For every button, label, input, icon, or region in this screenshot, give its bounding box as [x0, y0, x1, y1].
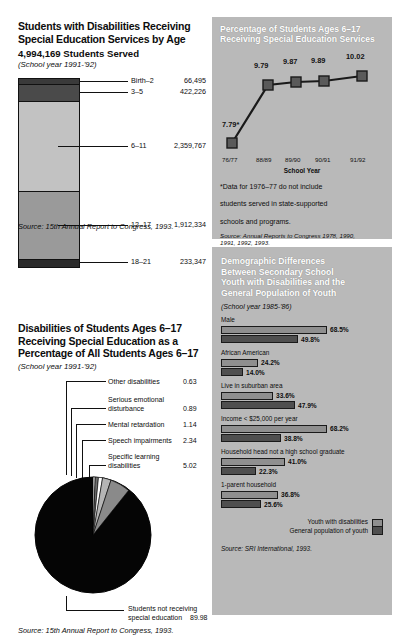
pie-label-specific-learning-disabilities-l1: Specific learning — [108, 453, 159, 461]
demo-value-male-disabilities: 68.5% — [330, 326, 349, 333]
line-marker-4 — [357, 71, 367, 81]
pie-label-other-disabilities: Other disabilities — [108, 378, 160, 386]
demo-legend-swatches — [372, 519, 383, 535]
line-marker-0 — [227, 138, 237, 148]
chart-demographic-differences: Demographic Differences Between Secondar… — [212, 247, 392, 615]
pie-leader-5-h — [66, 610, 124, 611]
chart-percentage-receiving-services: Percentage of Students Ages 6–17 Receivi… — [212, 17, 392, 239]
leader-18-21 — [80, 262, 128, 263]
line-chart-footnote-line2: students served in state-supported — [220, 200, 384, 209]
demo-legend-label-b: General population of youth — [289, 527, 368, 536]
line-chart-plot: 7.79* 9.79 9.87 9.89 10.02 — [220, 51, 384, 155]
pie-label-serious-emotional-disturbance-l1: Serious emotional — [108, 396, 164, 404]
pie-value-mental-retardation: 1.14 — [183, 421, 197, 429]
pie-chart-svg — [34, 476, 152, 594]
demo-category-suburban: Live in suburban area — [221, 382, 383, 390]
demo-value-male-general: 49.8% — [301, 336, 320, 343]
leader-6-11 — [58, 146, 128, 147]
demo-value-one-parent-general: 25.6% — [264, 501, 283, 508]
demo-title-line4: General Population of Youth — [221, 288, 383, 299]
pie-label-specific-learning-disabilities-l2: disabilities — [108, 462, 140, 470]
demo-bar-male-general — [221, 335, 298, 343]
demo-bar-row-income-general: 38.8% — [221, 434, 383, 442]
demo-bar-row-suburban-disabilities: 33.6% — [221, 392, 383, 400]
line-chart-footnote-line3: schools and programs. — [220, 218, 384, 227]
demo-bar-income-disabilities — [221, 425, 327, 433]
age-stack-column — [18, 78, 80, 268]
demo-bar-household-head-disabilities — [221, 458, 285, 466]
demo-category-african-american: African American — [221, 349, 383, 357]
line-chart-title-line2: Receiving Special Education Services — [220, 34, 384, 44]
pie-leader-2-h — [76, 424, 106, 425]
demo-category-income: Income < $25,000 per year — [221, 415, 383, 423]
demo-legend-swatch-general — [372, 527, 383, 535]
age-stacked-bar: Birth–2 3–5 6–11 12–17 18–21 66,495 422,… — [18, 78, 206, 268]
demo-value-suburban-disabilities: 33.6% — [276, 392, 295, 399]
demo-value-african-american-general: 14.0% — [246, 369, 265, 376]
demo-bar-one-parent-disabilities — [221, 491, 278, 499]
x-tick-3: 90/91 — [315, 156, 330, 163]
x-tick-1: 88/89 — [256, 156, 271, 163]
demo-title-line2: Between Secondary School — [221, 267, 383, 278]
age-chart-title-line1: Students with Disabilities Receiving — [18, 20, 198, 33]
pie-leader-3-h — [82, 440, 106, 441]
demo-category-male: Male — [221, 316, 383, 324]
demo-bar-row-one-parent-general: 25.6% — [221, 500, 383, 508]
x-tick-0: 76/77 — [222, 156, 237, 163]
leader-3-5 — [80, 92, 128, 93]
pie-value-students-not-receiving: 89.98 — [190, 614, 208, 622]
line-value-label-2: 9.87 — [283, 57, 297, 66]
demo-value-african-american-disabilities: 24.2% — [261, 359, 280, 366]
pie-leader-4-h — [89, 465, 106, 466]
pie-value-specific-learning-disabilities: 5.02 — [183, 462, 197, 470]
demo-bar-one-parent-general — [221, 500, 261, 508]
demo-legend: Youth with disabilities General populati… — [221, 518, 383, 535]
age-value-1: 422,226 — [140, 88, 206, 96]
pie-value-serious-emotional-disturbance: 0.89 — [183, 405, 197, 413]
demo-bar-male-disabilities — [221, 326, 327, 334]
demo-bar-row-african-american-general: 14.0% — [221, 368, 383, 376]
demo-school-year: (School year 1985-'86) — [221, 303, 383, 310]
line-chart-x-axis-labels: 76/77 88/89 89/90 90/91 91/92 — [220, 156, 384, 166]
demo-bar-row-male-general: 49.8% — [221, 335, 383, 343]
demo-bar-row-suburban-general: 47.9% — [221, 401, 383, 409]
age-value-2: 2,359,767 — [140, 142, 206, 150]
age-chart-source: Source: 15th Annual Report to Congress, … — [18, 222, 173, 231]
pie-chart-title-line2: Receiving Special Education as a — [18, 335, 208, 348]
demo-bar-african-american-general — [221, 368, 243, 376]
age-chart-school-year: (School year 1991-'92) — [18, 60, 206, 70]
pie-chart-title-line1: Disabilities of Students Ages 6–17 — [18, 322, 208, 335]
pie-chart-area: Other disabilities 0.63 Serious emotiona… — [18, 378, 208, 624]
demo-legend-labels: Youth with disabilities General populati… — [289, 518, 368, 535]
demo-bar-row-household-head-disabilities: 41.0% — [221, 458, 383, 466]
demo-bar-income-general — [221, 434, 281, 442]
demo-bar-row-african-american-disabilities: 24.2% — [221, 359, 383, 367]
demo-source: Source: SRI International, 1993. — [221, 545, 383, 552]
pie-leader-1-v — [71, 408, 72, 476]
x-tick-4: 91/92 — [350, 156, 365, 163]
pie-leader-0-v — [66, 381, 67, 475]
age-segment-3-5 — [19, 84, 79, 101]
line-chart-x-axis-title: School Year — [220, 167, 384, 174]
demo-value-income-disabilities: 68.2% — [330, 425, 349, 432]
age-value-4: 233,347 — [140, 258, 206, 266]
demo-group-household-head: Household head not a high school graduat… — [221, 448, 383, 475]
line-chart-footnote-line1: *Data for 1976–77 do not include — [220, 183, 384, 192]
demo-bar-row-household-head-general: 22.3% — [221, 467, 383, 475]
pie-chart-title-line3: Percentage of All Students Ages 6–17 — [18, 347, 208, 360]
pie-label-serious-emotional-disturbance-l2: disturbance — [108, 405, 144, 413]
demo-value-suburban-general: 47.9% — [298, 402, 317, 409]
demo-bar-row-male-disabilities: 68.5% — [221, 326, 383, 334]
demo-value-household-head-general: 22.3% — [259, 468, 278, 475]
age-value-0: 66,495 — [140, 77, 206, 85]
demo-title-line1: Demographic Differences — [221, 256, 383, 267]
demo-group-one-parent: 1-parent household 36.8% 25.6% — [221, 481, 383, 508]
demo-group-male: Male 68.5% 49.8% — [221, 316, 383, 343]
chart-students-by-age: Students with Disabilities Receiving Spe… — [18, 20, 206, 268]
demo-group-suburban: Live in suburban area 33.6% 47.9% — [221, 382, 383, 409]
chart-disabilities-percentage: Disabilities of Students Ages 6–17 Recei… — [18, 322, 208, 635]
pie-leader-0-h — [66, 381, 106, 382]
leader-birth-2 — [80, 81, 128, 82]
pie-label-students-not-receiving-l1: Students not receiving — [128, 605, 197, 613]
line-marker-2 — [291, 77, 301, 87]
